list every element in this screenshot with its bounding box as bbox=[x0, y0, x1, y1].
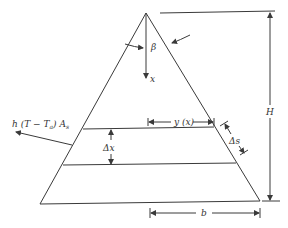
height-dimension: H bbox=[160, 11, 280, 201]
dx-dimension: Δx bbox=[102, 130, 115, 164]
pyramid-outline bbox=[40, 13, 260, 204]
ds-dimension: Δs bbox=[220, 121, 248, 155]
heat-loss-arrow bbox=[16, 132, 72, 145]
H-label: H bbox=[265, 107, 274, 117]
pyramid-fin-diagram: x β H b y (x) Δx Δs bbox=[0, 0, 288, 228]
y-dimension: y (x) bbox=[148, 117, 214, 127]
b-label: b bbox=[201, 208, 207, 218]
ds-label: Δs bbox=[228, 136, 240, 146]
beta-label: β bbox=[150, 42, 156, 52]
base-dimension: b bbox=[150, 208, 260, 218]
y-label: y (x) bbox=[173, 117, 195, 127]
dx-label: Δx bbox=[102, 143, 115, 153]
x-label: x bbox=[150, 74, 155, 84]
heat-loss-label: h (T − Ta) As bbox=[12, 119, 69, 130]
beta-arrow-right bbox=[172, 35, 190, 43]
element-slice bbox=[63, 127, 236, 165]
